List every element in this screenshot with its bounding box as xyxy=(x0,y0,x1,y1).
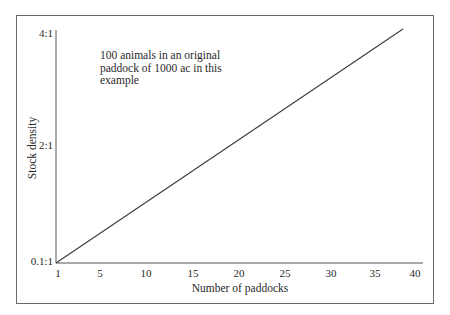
y-tick-0-1-1: 0.1:1 xyxy=(31,255,53,267)
x-axis-label: Number of paddocks xyxy=(192,282,289,295)
x-tick-20: 20 xyxy=(234,267,246,279)
y-tick-2-1: 2:1 xyxy=(39,139,53,151)
chart-svg: 4:1 2:1 0.1:1 1 5 10 15 20 25 30 35 40 N… xyxy=(0,0,450,315)
chart-annotation: 100 animals in an original paddock of 10… xyxy=(100,49,230,87)
x-tick-10: 10 xyxy=(141,267,153,279)
annotation-line-1: 100 animals in an original xyxy=(100,49,230,62)
x-tick-35: 35 xyxy=(370,267,382,279)
x-tick-5: 5 xyxy=(97,267,103,279)
x-tick-1: 1 xyxy=(55,267,61,279)
y-axis-label: Stock density xyxy=(26,117,39,180)
x-tick-15: 15 xyxy=(188,267,200,279)
clipped-caption xyxy=(16,310,356,315)
y-tick-4-1: 4:1 xyxy=(39,27,53,39)
x-tick-30: 30 xyxy=(326,267,338,279)
annotation-line-3: example xyxy=(100,74,230,87)
x-tick-40: 40 xyxy=(410,267,422,279)
x-tick-25: 25 xyxy=(280,267,292,279)
annotation-line-2: paddock of 1000 ac in this xyxy=(100,62,230,75)
